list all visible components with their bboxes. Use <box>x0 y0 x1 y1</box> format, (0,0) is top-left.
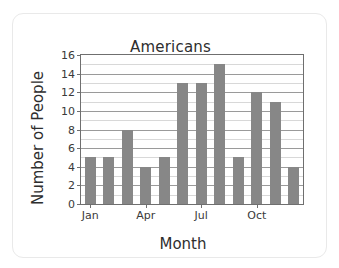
bar <box>233 157 244 204</box>
y-tick-label: 16 <box>61 50 75 61</box>
x-tick-mark <box>146 204 147 208</box>
x-tick-label: Jan <box>82 210 99 221</box>
x-tick-label: Jul <box>195 210 208 221</box>
x-tick-label: Apr <box>136 210 155 221</box>
y-tick-label: 0 <box>68 199 75 210</box>
x-tick-label: Oct <box>247 210 266 221</box>
y-tick-mark <box>77 148 81 149</box>
y-tick-mark <box>77 111 81 112</box>
gridline-minor <box>81 83 303 84</box>
x-tick-mark <box>257 204 258 208</box>
y-tick-mark <box>77 185 81 186</box>
bar <box>122 130 133 205</box>
y-tick-label: 8 <box>68 124 75 135</box>
bar <box>103 157 114 204</box>
y-tick-label: 4 <box>68 161 75 172</box>
bar <box>85 157 96 204</box>
y-tick-mark <box>77 130 81 131</box>
x-axis-title: Month <box>68 235 298 253</box>
gridline-major <box>81 74 303 75</box>
x-tick-mark <box>201 204 202 208</box>
bar <box>214 64 225 204</box>
y-tick-label: 2 <box>68 180 75 191</box>
plot-area: 0246810121416 JanAprJulOct <box>80 54 304 205</box>
bar <box>251 92 262 204</box>
y-tick-mark <box>77 204 81 205</box>
bar <box>288 167 299 204</box>
x-tick-mark <box>90 204 91 208</box>
gridline-major <box>81 92 303 93</box>
y-tick-label: 6 <box>68 143 75 154</box>
y-tick-mark <box>77 55 81 56</box>
bar <box>159 157 170 204</box>
y-tick-mark <box>77 74 81 75</box>
bar <box>140 167 151 204</box>
chart-card: Americans Number of People 0246810121416… <box>12 13 327 258</box>
y-tick-mark <box>77 167 81 168</box>
y-tick-label: 12 <box>61 87 75 98</box>
y-tick-label: 14 <box>61 68 75 79</box>
bar <box>177 83 188 204</box>
bar <box>196 83 207 204</box>
bar <box>270 102 281 204</box>
gridline-minor <box>81 64 303 65</box>
y-tick-label: 10 <box>61 105 75 116</box>
y-tick-mark <box>77 92 81 93</box>
y-axis-title: Number of People <box>29 58 47 218</box>
